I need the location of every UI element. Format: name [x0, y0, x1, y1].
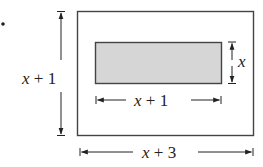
outer-height-dimension — [57, 12, 65, 136]
rectangle-dimension-diagram: x + 1 x x + 1 x + 3 — [0, 0, 263, 167]
outer-width-label: x + 3 — [141, 143, 176, 162]
inner-rectangle — [96, 43, 222, 84]
inner-width-label: x + 1 — [133, 91, 168, 110]
inner-height-label: x — [237, 52, 246, 71]
bullet-dot — [1, 22, 5, 26]
outer-height-label: x + 1 — [21, 69, 56, 88]
